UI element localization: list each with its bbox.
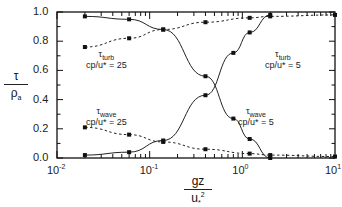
y-tick-label: 0.0 bbox=[33, 152, 48, 163]
annotation-tau-wave-5: τwave cp/u* = 5 bbox=[238, 107, 274, 127]
x-axis-label-numerator: gz bbox=[184, 174, 212, 190]
x-tick-label: 10-2 bbox=[47, 163, 65, 176]
x-tick-label: 10-1 bbox=[140, 163, 158, 176]
annotation-tau-turb-5: τturb cp/u* = 5 bbox=[265, 50, 301, 70]
y-axis-label-numerator: τ bbox=[4, 69, 28, 85]
plot-series bbox=[83, 13, 337, 160]
y-tick-label: 0.4 bbox=[33, 94, 48, 105]
y-tick-label: 0.6 bbox=[33, 64, 48, 75]
annotation-tau-turb-25: τturb cp/u* = 25 bbox=[86, 50, 127, 70]
x-tick-label: 100 bbox=[232, 163, 248, 176]
x-tick-label: 101 bbox=[325, 163, 341, 176]
y-tick-label: 0.8 bbox=[33, 35, 48, 46]
chart-plot bbox=[0, 0, 342, 207]
plot-axes bbox=[57, 12, 335, 158]
x-axis-label-denominator: u*2 bbox=[184, 190, 212, 206]
y-tick-label: 1.0 bbox=[33, 6, 48, 17]
y-tick-label: 0.2 bbox=[33, 123, 48, 134]
annotation-tau-wave-25: τwave cp/u* = 25 bbox=[86, 107, 127, 127]
x-axis-label: gz u*2 bbox=[184, 174, 212, 206]
y-axis-label: τ ρa bbox=[4, 69, 28, 101]
y-axis-label-denominator: ρa bbox=[4, 85, 28, 101]
